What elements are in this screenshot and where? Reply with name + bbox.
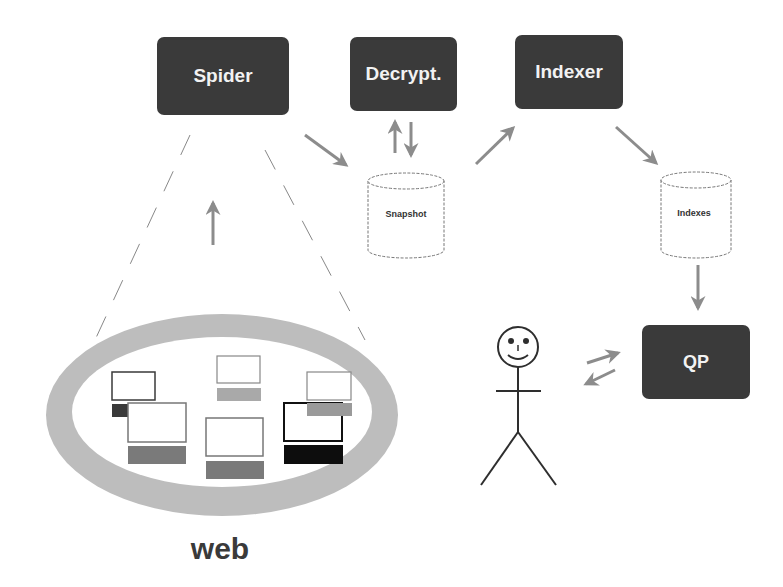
arrow-snapshot-to-indexer — [476, 128, 513, 164]
host-computer — [217, 356, 261, 401]
cone-right-line — [265, 150, 365, 340]
user-stick-figure — [481, 327, 556, 485]
user-right-leg — [518, 432, 556, 485]
host-computer — [206, 418, 264, 479]
decrypt-box: Decrypt. — [350, 37, 457, 111]
cone-left-line — [95, 135, 190, 340]
spider-cone — [95, 135, 365, 340]
host-computer — [128, 403, 186, 464]
indexes-label: Indexes — [658, 208, 730, 218]
web-label: web — [160, 532, 280, 566]
arrow-spider-to-snapshot — [305, 135, 346, 165]
user-left-leg — [481, 432, 518, 485]
qp-label: QP — [683, 352, 709, 373]
indexer-box: Indexer — [515, 35, 623, 109]
arrow-qp-to-user — [586, 370, 615, 384]
arrow-user-to-qp — [587, 353, 618, 363]
spider-label: Spider — [193, 65, 252, 87]
arrow-indexer-to-indexes — [616, 127, 656, 163]
indexer-label: Indexer — [535, 61, 603, 83]
snapshot-label: Snapshot — [366, 209, 446, 219]
decrypt-label: Decrypt. — [365, 63, 441, 85]
spider-box: Spider — [157, 37, 289, 115]
qp-box: QP — [642, 325, 750, 399]
host-computer — [307, 372, 352, 416]
